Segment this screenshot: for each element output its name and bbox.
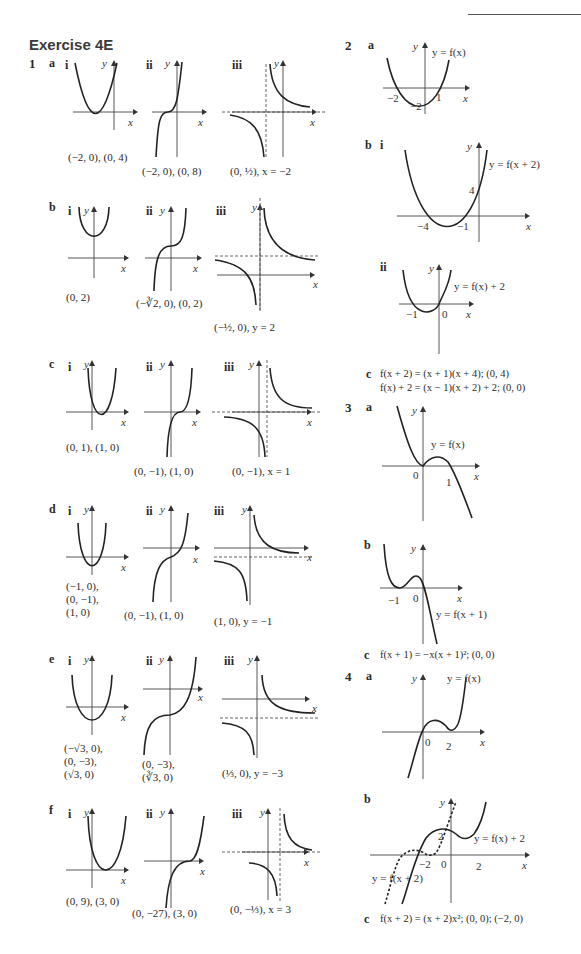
curve-label-4b-solid: y = f(x) + 2 [474, 832, 525, 845]
graph-2b-ii: y y = f(x) + 2 −1 0 x [397, 264, 557, 354]
graph-1a-i: yx [70, 60, 140, 135]
svg-text:0: 0 [442, 308, 448, 320]
svg-text:0: 0 [425, 736, 431, 748]
graph-1f-ii: yx [144, 808, 206, 908]
part-label-4c: c [364, 912, 369, 927]
svg-text:−2: −2 [410, 100, 422, 112]
graph-2b-i: y y = f(x + 2) 4 −4 −1 x [395, 142, 575, 242]
svg-text:y: y [248, 358, 254, 370]
caption-1a-i: (−2, 0), (0, 4) [68, 150, 127, 164]
question-number-3: 3 [345, 400, 352, 416]
graph-1c-i: yx [66, 360, 132, 432]
svg-text:y: y [439, 796, 445, 808]
svg-text:x: x [311, 702, 317, 714]
graph-1d-i: yx [66, 505, 132, 577]
curve-label-2a: y = f(x) [432, 46, 466, 59]
part-label-1a: a [49, 56, 55, 71]
caption-1c-ii: (0, −1), (1, 0) [134, 464, 193, 478]
caption-1d-ii: (0, −1), (1, 0) [124, 608, 183, 622]
graph-1b-ii: yx [145, 206, 205, 291]
svg-text:x: x [462, 92, 468, 104]
svg-text:x: x [120, 874, 126, 886]
svg-text:1: 1 [446, 476, 452, 488]
svg-text:−1: −1 [457, 220, 469, 232]
svg-text:x: x [197, 691, 203, 703]
svg-text:y: y [466, 140, 472, 152]
svg-text:y: y [259, 806, 265, 818]
part-label-1b: b [49, 200, 56, 215]
part-label-2a: a [368, 38, 374, 53]
answer-4c: f(x + 2) = (x + 2)x²; (0, 0); (−2, 0) [380, 912, 523, 926]
svg-text:y: y [83, 503, 89, 515]
svg-text:x: x [479, 736, 485, 748]
svg-text:y: y [411, 404, 417, 416]
caption-1c-iii: (0, −1), x = 1 [232, 464, 290, 478]
graph-1d-ii: yx [143, 505, 203, 605]
caption-1d-i: (−1, 0), (0, −1), (1, 0) [66, 580, 99, 619]
caption-1b-ii: (−∛2, 0), (0, 2) [136, 296, 202, 310]
caption-1e-i: (−√3, 0), (0, −3), (√3, 0) [64, 742, 103, 781]
svg-text:x: x [306, 551, 312, 563]
svg-text:x: x [199, 865, 205, 877]
question-number-2: 2 [345, 38, 352, 54]
svg-text:y: y [83, 806, 89, 818]
svg-text:x: x [191, 416, 197, 428]
caption-1d-iii: (1, 0), y = −1 [214, 614, 272, 628]
svg-text:y: y [159, 358, 165, 370]
svg-text:2: 2 [476, 860, 482, 872]
answer-3c: f(x + 1) = −x(x + 1)²; (0, 0) [380, 648, 495, 662]
svg-text:y: y [273, 57, 279, 69]
curve-label-2b-ii: y = f(x) + 2 [454, 280, 505, 293]
answer-2c-line-1: f(x + 2) = (x + 1)(x + 4); (0, 4) [380, 367, 509, 381]
svg-text:0: 0 [413, 469, 419, 481]
svg-text:x: x [197, 116, 203, 128]
svg-text:y: y [159, 503, 165, 515]
graph-1a-ii: yx [150, 60, 210, 160]
svg-text:x: x [120, 711, 126, 723]
caption-1f-ii: (0, −27), (3, 0) [132, 906, 197, 920]
svg-text:x: x [312, 278, 318, 290]
part-label-3a: a [366, 400, 372, 415]
svg-text:x: x [309, 116, 315, 128]
graph-1f-i: yx [66, 808, 132, 888]
graph-1e-ii: yx [143, 655, 205, 760]
svg-text:y: y [159, 806, 165, 818]
svg-text:y: y [247, 653, 253, 665]
sub-label-2b-i: i [380, 138, 383, 153]
svg-text:−1: −1 [406, 308, 418, 320]
caption-1f-iii: (0, −⅓), x = 3 [230, 902, 291, 916]
part-label-3c: c [364, 648, 369, 663]
graph-1f-iii: yx [222, 808, 327, 903]
graph-1b-iii: yx [215, 198, 325, 313]
svg-text:x: x [303, 856, 309, 868]
svg-text:y: y [158, 653, 164, 665]
question-number-1: 1 [29, 56, 36, 72]
svg-text:4: 4 [469, 184, 475, 196]
graph-3a: y y = f(x) 0 1 x [380, 406, 490, 521]
svg-text:y: y [428, 262, 434, 274]
graph-3b: y y = f(x + 1) −1 0 x [378, 544, 518, 644]
svg-text:−2: −2 [387, 92, 399, 104]
page-title: Exercise 4E [29, 36, 113, 53]
curve-label-4a: y = f(x) [447, 672, 481, 685]
curve-label-3b: y = f(x + 1) [436, 608, 487, 621]
graph-1e-iii: yx [220, 655, 328, 760]
curve-label-3a: y = f(x) [431, 438, 465, 451]
svg-text:1: 1 [436, 91, 442, 103]
svg-text:2: 2 [446, 740, 452, 752]
svg-text:y: y [83, 653, 89, 665]
sub-label-1a-i: i [65, 58, 68, 73]
svg-text:y: y [101, 57, 107, 69]
sub-label-2b-ii: ii [380, 260, 387, 275]
curve-label-4b-dashed: y = f(x + 2) [372, 872, 423, 885]
graph-1d-iii: yx [214, 505, 324, 605]
svg-text:x: x [192, 262, 198, 274]
svg-text:x: x [465, 308, 471, 320]
caption-1b-iii: (−½, 0), y = 2 [214, 320, 275, 334]
part-label-2c: c [366, 367, 371, 382]
part-label-1c: c [49, 357, 54, 372]
answer-2c-line-2: f(x) + 2 = (x − 1)(x + 2) + 2; (0, 0) [380, 381, 525, 395]
svg-text:x: x [120, 416, 126, 428]
caption-1a-iii: (0, ½), x = −2 [230, 164, 291, 178]
svg-text:2: 2 [438, 830, 444, 842]
